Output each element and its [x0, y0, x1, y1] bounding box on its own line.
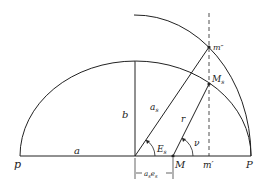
label-p: p — [14, 158, 21, 171]
point-m-double-prime — [207, 45, 210, 48]
label-M: M — [174, 159, 186, 170]
label-Ms: Ms — [211, 74, 224, 85]
label-as: as — [150, 102, 158, 113]
label-ae: ases — [144, 170, 158, 179]
arrowhead-Es — [146, 140, 150, 144]
label-a: a — [74, 145, 80, 156]
label-m-double-prime: m″ — [213, 43, 224, 52]
point-M — [171, 154, 174, 157]
label-P: P — [245, 159, 253, 170]
label-r: r — [181, 114, 186, 124]
point-Ms — [207, 82, 210, 85]
label-m-prime: m′ — [203, 160, 214, 170]
label-b: b — [122, 109, 128, 120]
label-Es: Es — [156, 144, 167, 155]
label-nu: ν — [194, 138, 200, 148]
ellipse-diagram: p a b as Es r ν M m′ P m″ Ms ases — [0, 0, 267, 193]
auxiliary-circle-arc — [134, 15, 251, 156]
radius-vector-r — [173, 84, 209, 156]
